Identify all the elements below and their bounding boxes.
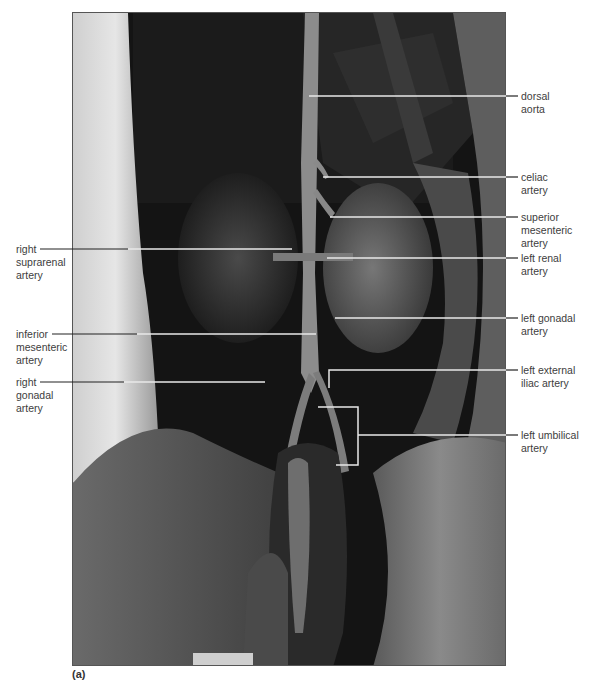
anatomy-figure: dorsal aorta celiac artery superior mese… [0, 0, 590, 690]
label-celiac-artery: celiac artery [521, 171, 548, 197]
label-superior-mesenteric-artery: superior mesenteric artery [521, 211, 572, 250]
label-left-renal-artery: left renal artery [521, 252, 561, 278]
label-inferior-mesenteric-artery: inferior mesenteric artery [16, 328, 67, 367]
panel-label: (a) [72, 668, 85, 680]
label-right-suprarenal-artery: right suprarenal artery [16, 243, 66, 282]
label-right-gonadal-artery: right gonadal artery [16, 376, 53, 415]
label-left-external-iliac-artery: left external iliac artery [521, 364, 575, 390]
label-dorsal-aorta: dorsal aorta [521, 90, 550, 116]
label-left-umbilical-artery: left umbilical artery [521, 429, 579, 455]
leader-lines [0, 0, 590, 690]
label-left-gonadal-artery: left gonadal artery [521, 312, 575, 338]
